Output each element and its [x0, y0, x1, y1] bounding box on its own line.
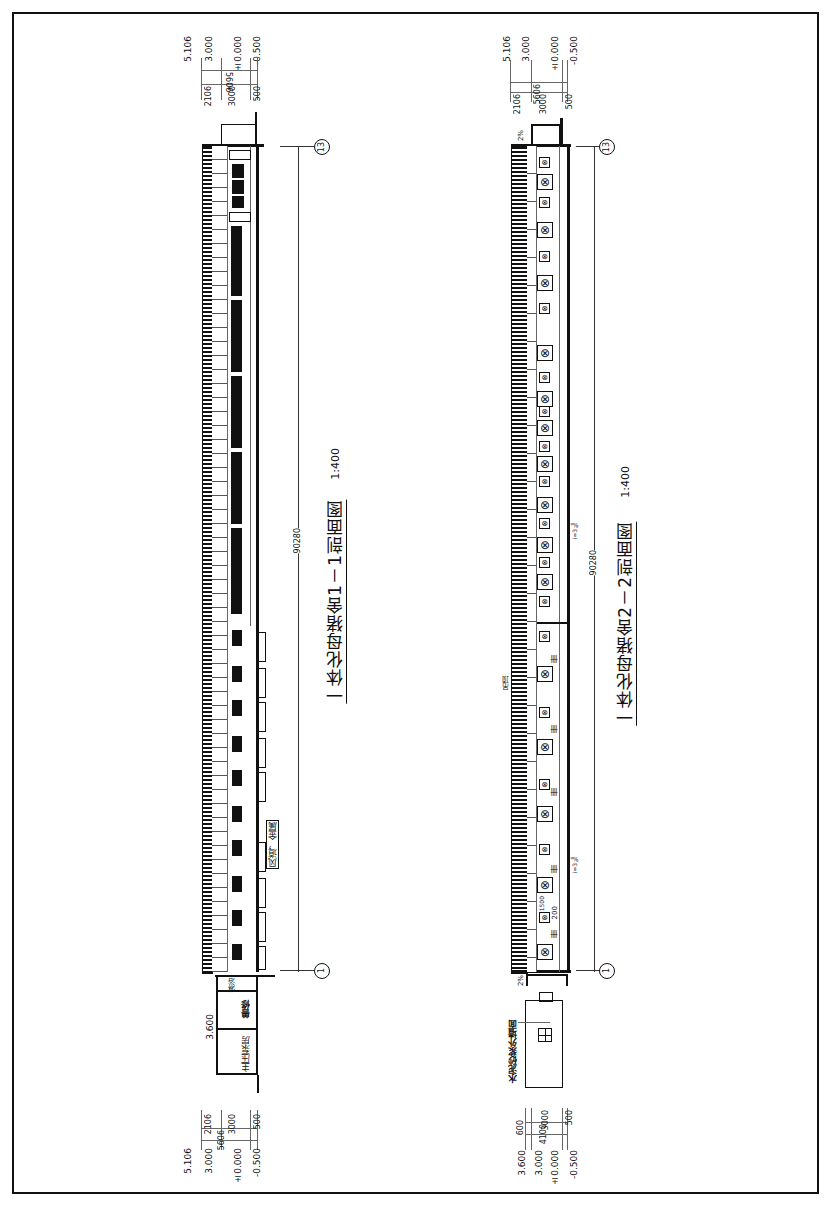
fan-icon: ⊗	[537, 275, 553, 291]
level-3600: 3.600	[518, 1150, 527, 1176]
fan-icon: ⊗	[539, 631, 550, 642]
fan-icon: ⊗	[539, 518, 550, 529]
partition	[537, 622, 567, 624]
fan-icon: ⊗	[539, 557, 550, 568]
wall-note: 水泥砂浆外墙面	[508, 1020, 517, 1083]
duct-label: 风道，金属	[266, 820, 279, 869]
slope-bottom: 2%	[518, 975, 525, 986]
fan-icon: ⊗	[539, 912, 550, 923]
fan-icon: ⊗	[539, 441, 550, 452]
fan-icon: ⊗	[539, 406, 550, 417]
stall-block	[231, 226, 242, 296]
dim-600: 600	[517, 1120, 525, 1135]
vent-label: 吊顶	[503, 676, 510, 690]
section-title-2: 一体化母猪舍2－2剖面图	[617, 522, 637, 726]
fan-icon: ⊗	[537, 222, 553, 238]
dim-500: 500	[566, 94, 574, 109]
dim-1500: 1500	[539, 896, 545, 911]
top-wall-2	[511, 144, 571, 147]
level-5106: 5.106	[184, 1148, 193, 1174]
gutter-slope-2: i=3‰	[572, 856, 578, 874]
fan-icon: ⊗	[539, 596, 550, 607]
level-minus-0500: -0.500	[570, 36, 579, 65]
fan-icon: ⊗	[539, 707, 550, 718]
fixture-icon: 卌	[551, 865, 559, 873]
fan-icon: ⊗	[537, 537, 553, 553]
fan-icon: ⊗	[537, 456, 553, 472]
stall-block	[231, 376, 242, 448]
level-3000: 3.000	[205, 36, 214, 62]
axis-13: 13	[599, 139, 615, 155]
dim-2106: 2106	[205, 86, 213, 106]
bottom-wall-2	[511, 970, 571, 973]
fan-icon: ⊗	[537, 174, 553, 190]
fan-icon: ⊗	[537, 739, 553, 755]
room-pump: 主压泵房	[241, 1036, 250, 1072]
fan-icon: ⊗	[539, 779, 550, 790]
level-3000: 3.000	[522, 36, 531, 62]
fan-icon: ⊗	[537, 877, 553, 893]
fixture-icon: 卌	[551, 930, 559, 938]
fan-icon: ⊗	[539, 157, 550, 168]
level-5106: 5.106	[184, 36, 193, 62]
dim-2106: 2106	[514, 94, 522, 114]
level-5106: 5.106	[503, 36, 512, 62]
fan-icon: ⊗	[539, 303, 550, 314]
level-0000: ±0.000	[551, 1150, 560, 1186]
fan-icon: ⊗	[539, 197, 550, 208]
level-minus-0500: -0.500	[570, 1150, 579, 1179]
fan-icon: ⊗	[537, 574, 553, 590]
fan-icon: ⊗	[537, 345, 553, 361]
dim-200: 200	[552, 906, 559, 919]
fan-icon: ⊗	[537, 806, 553, 822]
length-dim-line	[298, 146, 299, 972]
stall-block	[231, 528, 242, 614]
level-3000: 3.000	[535, 1150, 544, 1176]
room-shower: 淋浴	[229, 978, 236, 992]
dim-4100: 4100	[540, 1124, 548, 1144]
axis-13: 13	[314, 139, 330, 155]
stall-block	[231, 300, 242, 372]
axis-1: 1	[599, 963, 615, 979]
fan-icon: ⊗	[539, 844, 550, 855]
level-0000: ±0.000	[234, 36, 243, 72]
fixture-icon: 卌	[551, 655, 559, 663]
stall-block	[231, 452, 242, 524]
fan-icon: ⊗	[539, 372, 550, 383]
total-length: 90280	[294, 528, 302, 553]
fan-icon: ⊗	[539, 251, 550, 262]
dim-500: 500	[254, 1114, 262, 1129]
dim-2106: 2106	[205, 1114, 213, 1134]
window-icon	[538, 1028, 552, 1042]
dim-3000: 3000	[229, 86, 237, 106]
fan-icon: ⊗	[537, 666, 553, 682]
fan-icon: ⊗	[537, 944, 553, 960]
ceiling-ribs	[212, 146, 227, 972]
slope-top: 2%	[518, 130, 525, 141]
drawing-frame	[12, 12, 819, 1194]
fan-icon: ⊗	[539, 476, 550, 487]
fan-icon: ⊗	[537, 497, 553, 513]
fixture-icon: 卌	[551, 788, 559, 796]
annex-level: 3.600	[206, 1014, 215, 1040]
total-length-2: 90280	[590, 550, 598, 575]
room-vet: 兽修	[241, 1000, 250, 1018]
outer-wall-2	[567, 146, 570, 972]
section-scale: 1:400	[330, 448, 341, 480]
fan-icon: ⊗	[537, 420, 553, 436]
fixture-icon: 卌	[551, 725, 559, 733]
level-minus-0500: -0.500	[253, 1148, 262, 1177]
level-0000: ±0.000	[234, 1148, 243, 1184]
gutter-slope: i=3‰	[572, 522, 578, 540]
top-annex-2	[531, 124, 561, 144]
section-title: 一体化母猪舍1－1剖面图	[327, 500, 347, 704]
dim-500: 500	[566, 1110, 574, 1125]
section-scale-2: 1:400	[620, 466, 631, 498]
level-3000: 3.000	[205, 1148, 214, 1174]
fan-icon: ⊗	[537, 391, 553, 407]
level-0000: ±0.000	[551, 36, 560, 72]
roof-insulation-2	[511, 146, 528, 974]
dim-3000: 3000	[540, 94, 548, 114]
dim-5606: 5606	[218, 1130, 226, 1150]
dim-3000: 3000	[229, 1114, 237, 1134]
